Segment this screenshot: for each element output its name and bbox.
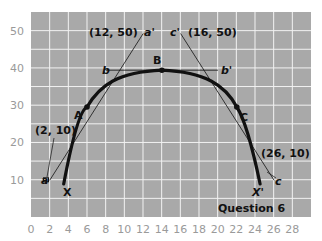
label-coord-26-10: (26, 10) (261, 147, 310, 160)
x-tick-label: 26 (267, 223, 281, 236)
label-a-prime: a' (144, 26, 155, 39)
label-coord-2-10: (2, 10) (35, 124, 76, 137)
x-tick-label: 24 (248, 223, 262, 236)
label-x-start: X (63, 186, 72, 199)
x-tick-label: 8 (102, 223, 109, 236)
x-tick-label: 6 (84, 223, 91, 236)
label-point-b: B (153, 54, 161, 67)
point-b-marker (159, 67, 165, 73)
x-tick-label: 10 (117, 223, 131, 236)
point-a-marker (84, 104, 90, 110)
x-tick-label: 18 (192, 223, 206, 236)
y-tick-label: 40 (10, 62, 24, 75)
x-tick-label: 16 (173, 223, 187, 236)
x-tick-label: 2 (46, 223, 53, 236)
label-x-end: X' (251, 186, 264, 199)
y-tick-label: 50 (10, 25, 24, 38)
x-tick-label: 22 (229, 223, 243, 236)
x-tick-label: 4 (65, 223, 72, 236)
x-axis-ticks: 0246810121416182022242628 (28, 223, 300, 236)
x-tick-label: 0 (28, 223, 35, 236)
label-point-c: C (240, 111, 248, 124)
chart: 0246810121416182022242628 1020304050 (12… (0, 0, 322, 241)
label-c: c (275, 175, 282, 188)
y-tick-label: 30 (10, 99, 24, 112)
y-tick-label: 10 (10, 174, 24, 187)
label-coord-12-50: (12, 50) (89, 26, 138, 39)
label-a: a (41, 174, 48, 187)
label-point-a: A (74, 109, 83, 122)
x-tick-label: 14 (155, 223, 169, 236)
y-axis-ticks: 1020304050 (10, 25, 24, 187)
y-tick-label: 20 (10, 136, 24, 149)
label-coord-16-50: (16, 50) (188, 26, 237, 39)
x-tick-label: 28 (285, 223, 299, 236)
x-tick-label: 12 (136, 223, 150, 236)
label-b-prime: b' (221, 64, 232, 77)
point-c-marker (234, 104, 240, 110)
label-b: b (102, 64, 110, 77)
plot-background (31, 12, 311, 217)
chart-title: Question 6 (218, 202, 285, 215)
x-tick-label: 20 (211, 223, 225, 236)
label-c-prime: c' (170, 26, 180, 39)
